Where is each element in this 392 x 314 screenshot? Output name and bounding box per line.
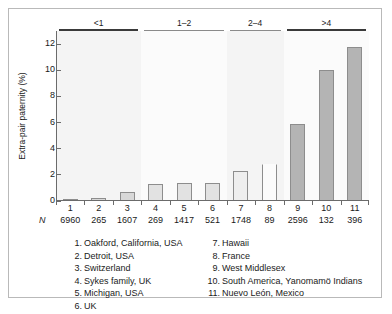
y-tick-label: 2 [50,168,55,181]
n-value-7: 1748 [227,215,255,225]
legend-column-right: 7.Hawaii8.France9.West Middlesex10.South… [206,237,386,300]
legend-item: 7.Hawaii [206,237,386,250]
x-axis-category-labels: 1234567891011 [56,203,369,215]
legend-item-label: Michigan, USA [84,288,144,298]
x-category-label-8: 8 [255,203,283,213]
legend-item: 1.Oakford, California, USA [68,237,218,250]
legend-item-number: 7. [206,237,220,250]
group-header-label: >4 [287,18,366,28]
n-value-8: 89 [255,215,283,225]
legend-item-number: 9. [206,262,220,275]
n-value-6: 521 [198,215,226,225]
y-tick-label: 12 [45,37,55,50]
legend-item: 11.Nuevo León, Mexico [206,287,386,300]
group-band-2 [141,31,226,201]
legend-item-number: 11. [206,287,220,300]
x-category-label-6: 6 [198,203,226,213]
group-header-3: 2–4 [230,17,281,31]
legend-item: 10.South America, Yanomamö Indians [206,275,386,288]
n-value-4: 269 [141,215,169,225]
legend-item: 6.UK [68,300,218,313]
bar-10 [319,70,334,201]
n-value-9: 2596 [284,215,312,225]
y-tick-label: 6 [50,116,55,129]
y-tick-label: 0 [50,194,55,207]
legend-item-number: 6. [68,300,82,313]
bar-5 [177,183,192,201]
legend-column-left: 1.Oakford, California, USA2.Detroit, USA… [68,237,218,313]
y-axis-label-text: Extra-pair paternity (%) [17,72,27,159]
legend-item-number: 2. [68,250,82,263]
legend-item: 3.Switzerland [68,262,218,275]
bar-8 [262,164,277,201]
legend-item-label: Sykes family, UK [84,276,151,286]
x-category-label-2: 2 [84,203,112,213]
y-tick-label: 10 [45,63,55,76]
group-header-label: 1–2 [144,18,223,28]
bar-11 [347,47,362,201]
legend-item-label: Hawaii [222,238,249,248]
x-category-label-1: 1 [56,203,84,213]
x-category-label-9: 9 [284,203,312,213]
y-axis-line [56,31,57,201]
n-value-3: 1607 [113,215,141,225]
bar-6 [205,183,220,201]
x-category-label-4: 4 [141,203,169,213]
x-category-label-7: 7 [227,203,255,213]
y-axis-label: Extra-pair paternity (%) [15,31,28,201]
x-category-label-3: 3 [113,203,141,213]
y-tick-label: 8 [50,89,55,102]
legend-item-label: South America, Yanomamö Indians [222,276,362,286]
x-category-label-10: 10 [312,203,340,213]
legend-item: 4.Sykes family, UK [68,275,218,288]
legend-item-label: France [222,251,250,261]
legend-item-label: Switzerland [84,263,131,273]
n-value-1: 6960 [56,215,84,225]
n-value-11: 396 [341,215,369,225]
n-row-symbol: N [39,215,46,225]
legend-item-number: 4. [68,275,82,288]
figure-frame: Extra-pair paternity (%) <11–22–4>4 0246… [8,8,382,298]
group-header-label: 2–4 [230,18,281,28]
n-value-10: 132 [312,215,340,225]
legend-item-number: 10. [206,275,220,288]
group-band-1 [56,31,141,201]
legend-item-number: 3. [68,262,82,275]
group-header-4: >4 [287,17,366,31]
bar-4 [148,184,163,201]
legend-item-label: Detroit, USA [84,251,134,261]
group-header-1: <1 [59,17,138,31]
x-axis-line [56,200,369,201]
n-row-values: 6960265160726914175211748892596132396 [56,215,369,227]
legend-item-number: 8. [206,250,220,263]
legend-item-number: 5. [68,287,82,300]
legend-item-label: UK [84,301,97,311]
legend-item-label: Oakford, California, USA [84,238,183,248]
legend-item: 2.Detroit, USA [68,250,218,263]
legend-item-label: Nuevo León, Mexico [222,288,304,298]
n-value-5: 1417 [170,215,198,225]
group-header-2: 1–2 [144,17,223,31]
legend-item-label: West Middlesex [222,263,285,273]
bar-7 [233,171,248,201]
x-category-label-11: 11 [341,203,369,213]
legend-item-number: 1. [68,237,82,250]
n-value-2: 265 [84,215,112,225]
group-header-label: <1 [59,18,138,28]
legend-item: 5.Michigan, USA [68,287,218,300]
legend-item: 8.France [206,250,386,263]
bar-9 [290,124,305,201]
plot-area: 024681012 [56,31,369,201]
y-tick-label: 4 [50,142,55,155]
x-category-label-5: 5 [170,203,198,213]
legend-item: 9.West Middlesex [206,262,386,275]
